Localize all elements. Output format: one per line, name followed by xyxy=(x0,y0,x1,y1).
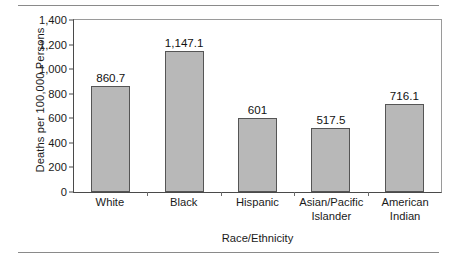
bar[interactable]: 517.5 xyxy=(311,128,350,192)
x-axis-category-label: Hispanic xyxy=(221,196,295,223)
x-axis-category-label-line: Asian/Pacific xyxy=(294,196,368,210)
x-axis-category-label: Asian/PacificIslander xyxy=(294,196,368,223)
bar[interactable]: 860.7 xyxy=(91,86,130,192)
bar-value-label: 716.1 xyxy=(390,89,419,102)
y-axis-tick-label: 0 xyxy=(7,186,74,198)
bar-value-label: 601 xyxy=(248,103,267,116)
y-axis-tick-label: 800 xyxy=(7,88,74,100)
bar-chart-figure: Deaths per 100,000 Persons 0200400600800… xyxy=(0,0,457,263)
bar[interactable]: 601 xyxy=(238,118,277,192)
bar-value-label: 860.7 xyxy=(96,71,125,84)
x-axis-category-label-line: Hispanic xyxy=(221,196,295,210)
bar-slot: 716.1 xyxy=(368,20,441,192)
x-axis-category-label-line: Black xyxy=(147,196,221,210)
bottom-divider-rule xyxy=(18,252,439,253)
bar-slot: 860.7 xyxy=(74,20,147,192)
x-axis-tick-labels: WhiteBlackHispanicAsian/PacificIslanderA… xyxy=(73,196,442,223)
bar[interactable]: 1,147.1 xyxy=(165,51,204,192)
x-axis-category-label-line: Islander xyxy=(294,210,368,224)
y-axis-tick-label: 1,200 xyxy=(7,39,74,51)
top-divider-rule xyxy=(18,5,439,6)
plot-area: 02004006008001,0001,2001,400 860.71,147.… xyxy=(73,19,442,193)
x-axis-category-label: White xyxy=(73,196,147,223)
bar-slot: 601 xyxy=(221,20,294,192)
bar-value-label: 517.5 xyxy=(316,113,345,126)
x-axis-title: Race/Ethnicity xyxy=(73,232,442,244)
x-axis-category-label-line: Indian xyxy=(368,210,442,224)
bar[interactable]: 716.1 xyxy=(385,104,424,192)
y-axis-tick-label: 600 xyxy=(7,112,74,124)
bar-value-label: 1,147.1 xyxy=(165,36,204,49)
bar-slot: 1,147.1 xyxy=(147,20,220,192)
x-axis-category-label-line: American xyxy=(368,196,442,210)
y-axis-tick-label: 400 xyxy=(7,137,74,149)
x-axis-category-label: AmericanIndian xyxy=(368,196,442,223)
x-axis-category-label: Black xyxy=(147,196,221,223)
y-axis-tick-label: 200 xyxy=(7,161,74,173)
y-axis-tick-label: 1,000 xyxy=(7,63,74,75)
bar-series: 860.71,147.1601517.5716.1 xyxy=(74,20,441,192)
bar-slot: 517.5 xyxy=(294,20,367,192)
y-axis-tick-label: 1,400 xyxy=(7,14,74,26)
x-axis-category-label-line: White xyxy=(73,196,147,210)
